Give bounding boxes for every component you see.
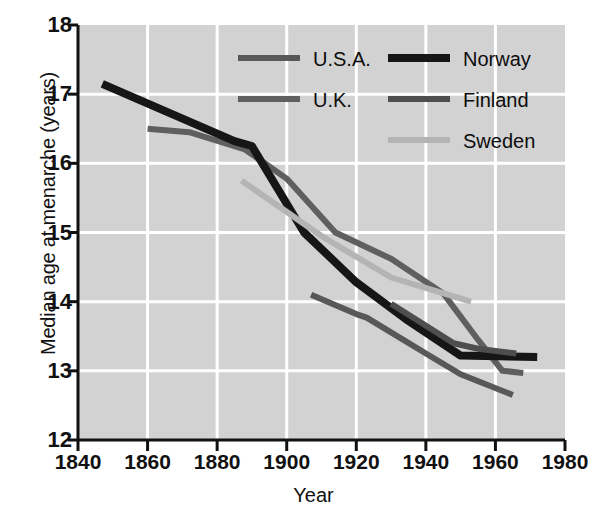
chart-figure: U.S.A.U.K.NorwayFinlandSweden 1213141516…: [0, 0, 603, 522]
x-tick-label: 1960: [455, 450, 535, 474]
x-tick-label: 1980: [525, 450, 603, 474]
x-tick-label: 1880: [177, 450, 257, 474]
legend-label-finland: Finland: [463, 89, 529, 111]
x-tick-label: 1860: [108, 450, 188, 474]
x-axis-label-text: Year: [293, 484, 333, 506]
legend-label-usa: U.S.A.: [313, 48, 371, 70]
x-axis-label: Year: [0, 484, 603, 507]
x-tick-label: 1920: [316, 450, 396, 474]
legend-label-sweden: Sweden: [463, 130, 535, 152]
legend-label-uk: U.K.: [313, 89, 352, 111]
legend-label-norway: Norway: [463, 48, 531, 70]
x-tick-label: 1900: [247, 450, 327, 474]
y-axis-label: Median age at menarche (years): [37, 4, 60, 424]
x-tick-label: 1840: [38, 450, 118, 474]
line-chart: U.S.A.U.K.NorwayFinlandSweden: [0, 0, 603, 522]
x-tick-label: 1940: [386, 450, 466, 474]
